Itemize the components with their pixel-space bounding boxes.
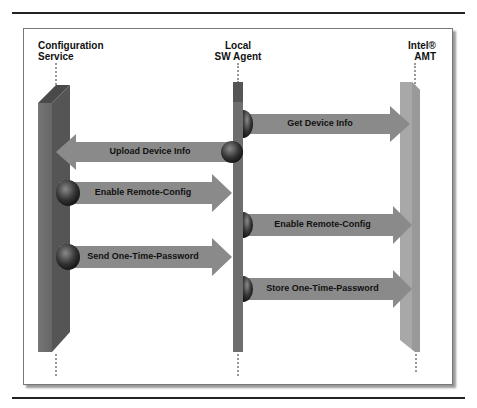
agent-pillar: [233, 82, 243, 352]
bottom-rule: [12, 397, 465, 399]
message-label-send-one-time-password: Send One-Time-Password: [78, 251, 208, 261]
config-pillar: [38, 85, 70, 352]
message-label-enable-remote-config-right: Enable Remote-Config: [255, 219, 390, 229]
message-label-store-one-time-password: Store One-Time-Password: [255, 283, 390, 293]
diagram-graphics: [0, 0, 477, 408]
message-label-get-device-info: Get Device Info: [255, 118, 385, 128]
message-label-enable-remote-config-left: Enable Remote-Config: [78, 187, 208, 197]
message-label-upload-device-info: Upload Device Info: [80, 146, 220, 156]
